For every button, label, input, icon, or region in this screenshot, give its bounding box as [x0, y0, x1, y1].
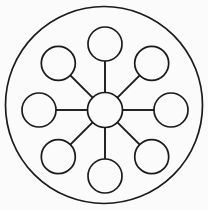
node-upper-right[interactable]	[135, 46, 169, 80]
node-right[interactable]	[154, 93, 188, 127]
diagram-canvas	[0, 0, 208, 210]
node-bottom[interactable]	[88, 159, 122, 193]
spoke-lower-left	[70, 122, 92, 144]
spoke-upper-right	[117, 75, 139, 97]
node-left[interactable]	[22, 93, 56, 127]
node-lower-left[interactable]	[41, 140, 75, 174]
node-upper-left[interactable]	[41, 46, 75, 80]
radial-hub-spoke-diagram	[0, 0, 208, 210]
node-top[interactable]	[88, 27, 122, 61]
hub-node-circle[interactable]	[88, 93, 123, 128]
spoke-lower-right	[117, 122, 139, 144]
node-lower-right[interactable]	[135, 140, 169, 174]
spoke-upper-left	[70, 75, 92, 97]
